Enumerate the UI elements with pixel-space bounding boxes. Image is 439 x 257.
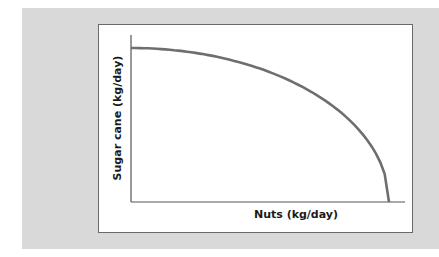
ppf-chart [0, 0, 439, 257]
ppf-curve [131, 48, 389, 202]
y-axis-label: Sugar cane (kg/day) [111, 56, 124, 181]
x-axis-label: Nuts (kg/day) [254, 208, 338, 221]
